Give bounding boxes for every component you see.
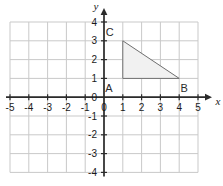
x-tick-label: -3 <box>43 102 52 113</box>
y-tick-label: 2 <box>91 54 97 65</box>
x-axis-tick-labels: -5-4-3-2-1012345 <box>6 102 202 113</box>
y-axis-name-label: y <box>93 0 99 12</box>
x-tick-label: 1 <box>120 102 126 113</box>
x-tick-label: -5 <box>6 102 15 113</box>
y-tick-label: -1 <box>88 111 97 122</box>
x-axis-name-label: x <box>215 95 221 107</box>
x-tick-label: 3 <box>158 102 164 113</box>
x-tick-label: -4 <box>24 102 33 113</box>
y-tick-label: 4 <box>91 17 97 28</box>
x-tick-label: -2 <box>62 102 71 113</box>
x-tick-label: 2 <box>139 102 145 113</box>
y-tick-label: -2 <box>88 129 97 140</box>
y-tick-label: 3 <box>91 35 97 46</box>
y-tick-label: 0 <box>91 92 97 103</box>
y-axis-arrowhead <box>101 8 108 15</box>
y-tick-label: -3 <box>88 148 97 159</box>
graph-canvas: -5-4-3-2-1012345 43210-1-2-3-4 ABC xy <box>0 0 223 186</box>
x-tick-label: 5 <box>195 102 201 113</box>
x-tick-label: 0 <box>101 102 107 113</box>
coordinate-plane-figure: -5-4-3-2-1012345 43210-1-2-3-4 ABC xy <box>0 0 223 186</box>
x-tick-label: 4 <box>176 102 182 113</box>
x-axis-arrowhead <box>205 94 212 101</box>
vertex-label-b: B <box>181 82 188 94</box>
vertex-label-a: A <box>105 82 113 94</box>
vertex-label-c: C <box>106 26 114 38</box>
y-tick-label: 1 <box>91 73 97 84</box>
y-tick-label: -4 <box>88 167 97 178</box>
